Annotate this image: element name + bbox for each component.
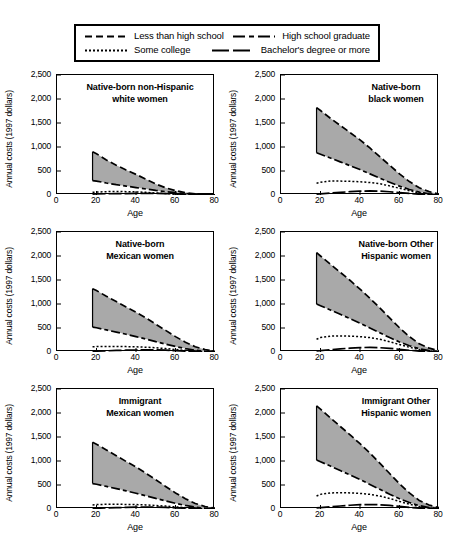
y-tick-label: 1,000 (31, 299, 51, 308)
x-tick-label: 20 (315, 510, 324, 519)
x-tick-label: 60 (394, 196, 403, 205)
x-tick-label: 40 (354, 353, 363, 362)
x-tick-label: 0 (278, 353, 283, 362)
x-axis-label: Age (280, 208, 438, 218)
y-axis-ticks: 05001,0001,5002,0002,500 (16, 74, 54, 194)
shaded-band (93, 442, 215, 508)
y-axis-ticks: 05001,0001,5002,0002,500 (16, 231, 54, 351)
chart-panel: Annual costs (1997 dollars)05001,0001,50… (224, 68, 450, 226)
shaded-band (93, 152, 215, 195)
x-axis-ticks: 020406080 (56, 510, 214, 522)
y-axis-ticks: 05001,0001,5002,0002,500 (240, 388, 278, 508)
panel-title: Native-born Other Hispanic women (344, 239, 448, 262)
y-tick-label: 2,500 (255, 384, 275, 393)
y-tick-label: 1,500 (255, 432, 275, 441)
y-tick-label: 1,000 (255, 299, 275, 308)
y-tick-label: 500 (37, 323, 51, 332)
chart-panel: Annual costs (1997 dollars)05001,0001,50… (0, 225, 226, 383)
y-tick-label: 1,500 (31, 118, 51, 127)
y-tick-label: 2,000 (31, 251, 51, 260)
figure: Less than high school High school gradua… (0, 0, 453, 553)
y-axis-ticks: 05001,0001,5002,0002,500 (240, 74, 278, 194)
x-tick-label: 40 (130, 353, 139, 362)
legend-entry-less-than-high-school: Less than high school (84, 31, 232, 41)
x-axis-label: Age (56, 208, 214, 218)
series-line (93, 507, 215, 509)
panel-grid: Annual costs (1997 dollars)05001,0001,50… (0, 68, 453, 553)
legend-label: High school graduate (282, 31, 370, 41)
panel-title: Native-born Mexican women (70, 239, 210, 262)
y-tick-label: 2,000 (255, 408, 275, 417)
legend: Less than high school High school gradua… (74, 24, 380, 62)
x-tick-label: 80 (433, 510, 442, 519)
y-tick-label: 2,000 (255, 251, 275, 260)
x-tick-label: 20 (315, 353, 324, 362)
y-tick-label: 1,500 (31, 275, 51, 284)
x-tick-label: 20 (91, 510, 100, 519)
x-tick-label: 60 (170, 196, 179, 205)
x-tick-label: 0 (54, 353, 59, 362)
chart-panel: Annual costs (1997 dollars)05001,0001,50… (224, 225, 450, 383)
legend-label: Bachelor's degree or more (261, 45, 370, 55)
x-tick-label: 80 (209, 353, 218, 362)
x-tick-label: 0 (278, 196, 283, 205)
y-tick-label: 0 (270, 504, 275, 513)
x-tick-label: 40 (130, 196, 139, 205)
y-tick-label: 0 (46, 504, 51, 513)
y-axis-ticks: 05001,0001,5002,0002,500 (16, 388, 54, 508)
y-axis-label: Annual costs (1997 dollars) (226, 237, 240, 355)
y-axis-ticks: 05001,0001,5002,0002,500 (240, 231, 278, 351)
x-tick-label: 40 (130, 510, 139, 519)
y-tick-label: 1,000 (31, 456, 51, 465)
x-tick-label: 20 (91, 353, 100, 362)
y-tick-label: 2,500 (31, 70, 51, 79)
dash-dot-line-icon (232, 32, 276, 41)
x-tick-label: 20 (315, 196, 324, 205)
x-tick-label: 60 (170, 353, 179, 362)
x-tick-label: 40 (354, 510, 363, 519)
y-tick-label: 2,500 (255, 70, 275, 79)
x-tick-label: 40 (354, 196, 363, 205)
y-tick-label: 500 (37, 480, 51, 489)
y-tick-label: 1,500 (31, 432, 51, 441)
y-tick-label: 500 (261, 480, 275, 489)
legend-entry-bachelors-degree-or-more: Bachelor's degree or more (211, 45, 370, 55)
y-tick-label: 2,000 (31, 408, 51, 417)
y-tick-label: 2,500 (31, 227, 51, 236)
y-tick-label: 500 (261, 323, 275, 332)
y-tick-label: 2,000 (255, 94, 275, 103)
y-tick-label: 0 (46, 190, 51, 199)
panel-title: Immigrant Other Hispanic women (344, 396, 448, 419)
x-tick-label: 60 (394, 510, 403, 519)
chart-panel: Annual costs (1997 dollars)05001,0001,50… (0, 382, 226, 540)
y-axis-label: Annual costs (1997 dollars) (226, 80, 240, 198)
x-tick-label: 0 (54, 510, 59, 519)
y-tick-label: 2,500 (31, 384, 51, 393)
x-tick-label: 60 (394, 353, 403, 362)
legend-entry-high-school-graduate: High school graduate (232, 31, 370, 41)
panel-title: Native-born black women (344, 82, 448, 105)
shaded-band (93, 289, 215, 352)
x-axis-ticks: 020406080 (56, 353, 214, 365)
chart-panel: Annual costs (1997 dollars)05001,0001,50… (0, 68, 226, 226)
x-tick-label: 0 (278, 510, 283, 519)
x-tick-label: 80 (433, 196, 442, 205)
y-tick-label: 2,500 (255, 227, 275, 236)
y-axis-label: Annual costs (1997 dollars) (2, 80, 16, 198)
x-axis-label: Age (280, 365, 438, 375)
x-axis-ticks: 020406080 (280, 196, 438, 208)
panel-title: Native-born non-Hispanic white women (70, 82, 210, 105)
x-tick-label: 80 (209, 510, 218, 519)
x-axis-label: Age (56, 365, 214, 375)
y-tick-label: 1,000 (255, 456, 275, 465)
x-tick-label: 80 (433, 353, 442, 362)
y-tick-label: 500 (261, 166, 275, 175)
x-axis-label: Age (56, 522, 214, 532)
x-tick-label: 0 (54, 196, 59, 205)
panel-title: Immigrant Mexican women (70, 396, 210, 419)
x-tick-label: 60 (170, 510, 179, 519)
y-tick-label: 500 (37, 166, 51, 175)
y-axis-label: Annual costs (1997 dollars) (2, 394, 16, 512)
y-tick-label: 1,000 (255, 142, 275, 151)
long-dash-line-icon (84, 32, 128, 41)
